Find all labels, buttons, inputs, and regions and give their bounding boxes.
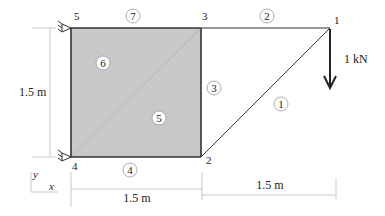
vertical-dimension-label: 1.5 m — [19, 85, 47, 99]
svg-text:1: 1 — [278, 98, 284, 110]
svg-text:2: 2 — [264, 10, 270, 22]
element-label-4: 4 — [123, 163, 137, 177]
horizontal-dimension-left-label: 1.5 m — [123, 191, 151, 205]
element-1-bar — [201, 28, 330, 157]
element-label-2: 2 — [260, 9, 274, 23]
svg-text:7: 7 — [130, 10, 136, 22]
svg-text:3: 3 — [211, 82, 217, 94]
pin-support-node-5-icon — [58, 21, 71, 32]
load-arrow-icon — [324, 29, 336, 88]
load-label: 1 kN — [344, 52, 368, 66]
node-label-5: 5 — [74, 10, 80, 22]
node-label-3: 3 — [202, 10, 208, 22]
node-label-4: 4 — [72, 160, 78, 172]
axis-x-label: x — [48, 180, 54, 192]
element-label-7: 7 — [126, 9, 140, 23]
pin-support-node-4-icon — [58, 150, 71, 161]
horizontal-dimension-right-label: 1.5 m — [256, 178, 284, 192]
axis-y-label: y — [32, 168, 38, 180]
element-label-5: 5 — [152, 111, 166, 125]
element-label-1: 1 — [274, 97, 288, 111]
svg-text:6: 6 — [100, 57, 106, 69]
node-label-1: 1 — [334, 14, 340, 26]
element-label-6: 6 — [96, 56, 110, 70]
svg-text:4: 4 — [127, 164, 133, 176]
structure-diagram: 1 kN 5 3 1 4 2 7 2 6 3 5 1 4 1.5 m — [0, 0, 385, 216]
svg-text:5: 5 — [156, 112, 162, 124]
element-label-3: 3 — [207, 81, 221, 95]
node-label-2: 2 — [206, 154, 212, 166]
